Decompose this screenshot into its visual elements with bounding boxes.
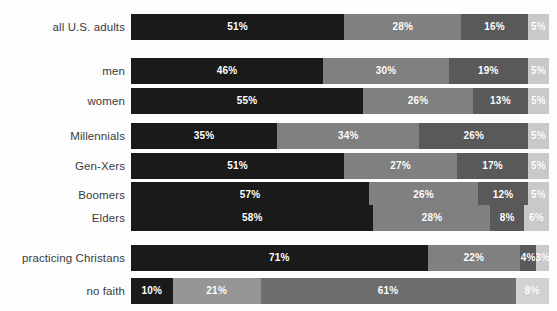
bar-segment-value: 51% <box>227 22 248 32</box>
bar-segment: 6% <box>524 205 549 231</box>
chart-row: no faith10%21%61%8% <box>0 278 557 304</box>
bar-segment: 61% <box>261 278 516 304</box>
bar-segment-value: 35% <box>194 131 215 141</box>
bar-segment-value: 26% <box>408 96 429 106</box>
row-label: practicing Christans <box>0 252 131 264</box>
bar-segment: 28% <box>344 14 461 40</box>
chart-row: Millennials35%34%26%5% <box>0 123 557 149</box>
bar-segment-value: 26% <box>463 131 484 141</box>
bar-segment: 5% <box>528 58 549 84</box>
bar-segment: 46% <box>131 58 323 84</box>
bar-segment: 27% <box>344 153 457 179</box>
bar-segment-value: 8% <box>525 286 540 296</box>
chart-row: Gen-Xers51%27%17%5% <box>0 153 557 179</box>
stacked-bar: 35%34%26%5% <box>131 123 549 149</box>
bar-segment-value: 3% <box>536 253 549 263</box>
bar-segment-value: 26% <box>413 190 434 200</box>
row-label: Elders <box>0 212 131 224</box>
bar-segment-value: 5% <box>531 22 546 32</box>
bar-segment: 22% <box>428 245 520 271</box>
bar-segment: 71% <box>131 245 428 271</box>
bar-segment-value: 27% <box>390 161 411 171</box>
row-label: Boomers <box>0 189 131 201</box>
bar-segment: 3% <box>536 245 549 271</box>
bar-segment-value: 46% <box>217 66 238 76</box>
bar-segment-value: 58% <box>242 213 263 223</box>
bar-segment: 30% <box>323 58 448 84</box>
bar-segment-value: 61% <box>378 286 399 296</box>
bar-segment: 8% <box>490 205 523 231</box>
bar-segment: 5% <box>528 153 549 179</box>
row-label: Millennials <box>0 130 131 142</box>
stacked-bar: 58%28%8%6% <box>131 205 549 231</box>
row-label: Gen-Xers <box>0 160 131 172</box>
bar-segment: 5% <box>528 88 549 114</box>
chart-row: Elders58%28%8%6% <box>0 205 557 231</box>
bar-segment: 17% <box>457 153 528 179</box>
stacked-bar: 51%27%17%5% <box>131 153 549 179</box>
bar-segment: 21% <box>173 278 261 304</box>
bar-segment: 34% <box>277 123 419 149</box>
bar-segment: 26% <box>419 123 528 149</box>
bar-segment: 28% <box>373 205 490 231</box>
bar-segment: 16% <box>461 14 528 40</box>
bar-segment-value: 28% <box>392 22 413 32</box>
stacked-bar: 10%21%61%8% <box>131 278 549 304</box>
bar-segment-value: 4% <box>521 253 536 263</box>
bar-segment-value: 17% <box>482 161 503 171</box>
bar-segment-value: 6% <box>529 213 544 223</box>
bar-segment-value: 55% <box>237 96 258 106</box>
bar-segment: 4% <box>520 245 537 271</box>
bar-segment-value: 28% <box>422 213 443 223</box>
bar-segment-value: 5% <box>531 131 546 141</box>
row-label: no faith <box>0 285 131 297</box>
bar-segment: 35% <box>131 123 277 149</box>
stacked-bar: 51%28%16%5% <box>131 14 549 40</box>
bar-segment-value: 22% <box>463 253 484 263</box>
bar-segment: 51% <box>131 14 344 40</box>
stacked-bar: 46%30%19%5% <box>131 58 549 84</box>
bar-segment-value: 57% <box>240 190 261 200</box>
row-label: women <box>0 95 131 107</box>
bar-segment-value: 8% <box>500 213 515 223</box>
bar-segment: 5% <box>528 123 549 149</box>
chart-row: practicing Christans71%22%4%3% <box>0 245 557 271</box>
bar-segment-value: 16% <box>484 22 505 32</box>
bar-segment: 10% <box>131 278 173 304</box>
row-label: all U.S. adults <box>0 21 131 33</box>
bar-segment-value: 5% <box>531 190 546 200</box>
row-label: men <box>0 65 131 77</box>
bar-segment: 51% <box>131 153 344 179</box>
bar-segment: 55% <box>131 88 363 114</box>
bar-segment: 19% <box>449 58 528 84</box>
bar-segment-value: 34% <box>338 131 359 141</box>
stacked-bar: 71%22%4%3% <box>131 245 549 271</box>
bar-segment-value: 19% <box>478 66 499 76</box>
bar-segment-value: 5% <box>531 66 546 76</box>
chart-row: men46%30%19%5% <box>0 58 557 84</box>
chart-row: women55%26%13%5% <box>0 88 557 114</box>
bar-segment: 58% <box>131 205 373 231</box>
bar-segment-value: 13% <box>490 96 511 106</box>
bar-segment-value: 5% <box>531 96 546 106</box>
bar-segment-value: 5% <box>531 161 546 171</box>
bar-segment-value: 12% <box>493 190 514 200</box>
chart-row: all U.S. adults51%28%16%5% <box>0 14 557 40</box>
bar-segment: 5% <box>528 14 549 40</box>
bar-segment: 13% <box>473 88 528 114</box>
bar-segment-value: 10% <box>142 286 163 296</box>
bar-segment-value: 21% <box>206 286 227 296</box>
stacked-bar-chart: all U.S. adults51%28%16%5%men46%30%19%5%… <box>0 0 557 311</box>
bar-segment-value: 30% <box>376 66 397 76</box>
bar-segment: 26% <box>363 88 473 114</box>
bar-segment-value: 71% <box>269 253 290 263</box>
bar-segment-value: 51% <box>227 161 248 171</box>
bar-segment: 8% <box>516 278 549 304</box>
stacked-bar: 55%26%13%5% <box>131 88 549 114</box>
